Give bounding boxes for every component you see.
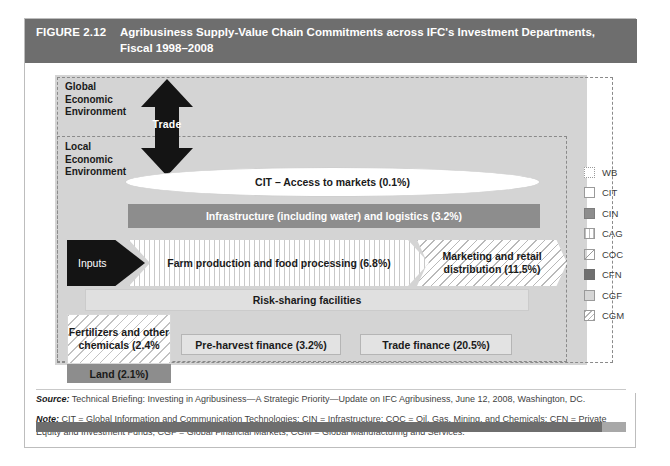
legend-label-cgf: CGF: [602, 290, 622, 301]
marketing-chevron-label: Marketing and retail distribution (11.5%…: [417, 250, 567, 276]
value-chain-chevron-row: Marketing and retail distribution (11.5%…: [67, 240, 567, 286]
legend-swatch-cfn-icon: [584, 269, 595, 280]
legend-item-cfn: CFN: [584, 265, 636, 286]
fertilizers-box-label: Fertilizers and other chemicals (2.4%: [68, 326, 170, 352]
diagram-area: Global Economic Environment Local Econom…: [25, 63, 637, 393]
source-line: Source: Technical Briefing: Investing in…: [36, 393, 626, 407]
figure-container: FIGURE 2.12 Agribusiness Supply-Value Ch…: [24, 18, 636, 448]
legend-item-cag: CAG: [584, 224, 636, 245]
farm-chevron-label: Farm production and food processing (6.8…: [167, 257, 390, 270]
pre-harvest-finance-box: Pre-harvest finance (3.2%): [181, 334, 341, 355]
figure-notes: Source: Technical Briefing: Investing in…: [25, 393, 637, 446]
legend-label-cag: CAG: [602, 228, 623, 239]
legend-item-cit: CIT: [584, 183, 636, 204]
fertilizers-chemicals-box: Fertilizers and other chemicals (2.4%: [67, 314, 171, 364]
legend-swatch-cgm-icon: [584, 310, 595, 321]
risk-sharing-facilities-band: Risk-sharing facilities: [85, 289, 529, 311]
legend-item-cin: CIN: [584, 203, 636, 224]
notes-divider: [36, 389, 626, 390]
legend-label-wb: WB: [602, 167, 617, 178]
land-box: Land (2.1%): [67, 364, 171, 383]
figure-number-label: FIGURE 2.12: [36, 26, 106, 38]
source-key: Source:: [36, 394, 70, 404]
source-text: Technical Briefing: Investing in Agribus…: [70, 394, 586, 404]
figure-title-bar: FIGURE 2.12 Agribusiness Supply-Value Ch…: [25, 19, 637, 63]
legend-swatch-cgf-icon: [584, 290, 595, 301]
legend-swatch-wb-icon: [584, 167, 595, 178]
figure-title-text: Agribusiness Supply-Value Chain Commitme…: [120, 25, 625, 56]
legend-label-coc: COC: [602, 249, 623, 260]
legend-item-cgm: CGM: [584, 306, 636, 327]
marketing-retail-distribution-chevron: Marketing and retail distribution (11.5%…: [417, 240, 567, 286]
cit-access-to-markets-ellipse: CIT – Access to markets (0.1%): [125, 167, 540, 197]
legend-item-wb: WB: [584, 162, 636, 183]
infrastructure-logistics-bar: Infrastructure (including water) and log…: [128, 204, 540, 228]
legend-label-cgm: CGM: [602, 310, 624, 321]
legend-swatch-cit-icon: [584, 187, 595, 198]
legend-item-cgf: CGF: [584, 285, 636, 306]
trade-finance-box: Trade finance (20.5%): [360, 334, 512, 355]
local-environment-label: Local Economic Environment: [65, 141, 126, 179]
global-environment-label: Global Economic Environment: [65, 81, 126, 119]
legend-item-coc: COC: [584, 244, 636, 265]
figure-bottom-bar-light: [602, 422, 626, 432]
legend: WB CIT CIN CAG COC CFN: [584, 162, 636, 326]
legend-swatch-cin-icon: [584, 208, 595, 219]
farm-production-food-processing-chevron: Farm production and food processing (6.8…: [129, 240, 429, 286]
legend-swatch-cag-icon: [584, 228, 595, 239]
figure-bottom-bar-dark: [36, 422, 602, 432]
legend-label-cfn: CFN: [602, 269, 622, 280]
trade-label: Trade: [137, 118, 197, 130]
legend-swatch-coc-icon: [584, 249, 595, 260]
legend-label-cit: CIT: [602, 187, 617, 198]
inputs-chevron-label: Inputs: [78, 257, 107, 269]
inputs-chevron: Inputs: [67, 240, 145, 286]
legend-label-cin: CIN: [602, 208, 618, 219]
